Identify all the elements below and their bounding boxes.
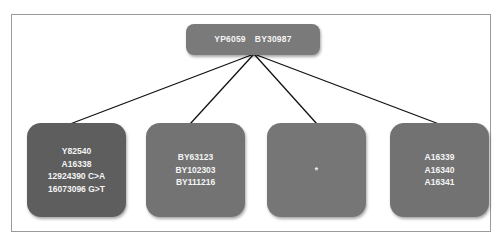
child-1-line-3: 12924390 C>A bbox=[48, 170, 105, 183]
child-node-1: Y82540 A16338 12924390 C>A 16073096 G>T bbox=[27, 123, 126, 217]
child-node-4: A16339 A16340 A16341 bbox=[390, 123, 489, 217]
child-node-2: BY63123 BY102303 BY111216 bbox=[146, 123, 245, 217]
child-node-3: * bbox=[267, 123, 366, 217]
child-4-line-2: A16340 bbox=[425, 164, 455, 177]
child-3-line-1: * bbox=[315, 164, 318, 177]
child-2-line-1: BY63123 bbox=[178, 151, 213, 164]
child-1-line-2: A16338 bbox=[62, 158, 92, 171]
connector-to-child-4 bbox=[254, 54, 439, 124]
root-node: YP6059 BY30987 bbox=[186, 24, 320, 55]
root-label-1: YP6059 bbox=[214, 33, 245, 46]
connector-to-child-2 bbox=[190, 54, 254, 124]
child-2-line-2: BY102303 bbox=[175, 164, 215, 177]
child-4-line-1: A16339 bbox=[425, 151, 455, 164]
child-1-line-4: 16073096 G>T bbox=[48, 183, 105, 196]
child-4-line-3: A16341 bbox=[425, 176, 455, 189]
connector-to-child-3 bbox=[254, 54, 317, 124]
child-2-line-3: BY111216 bbox=[176, 176, 215, 189]
root-label-2: BY30987 bbox=[255, 33, 292, 46]
connector-to-child-1 bbox=[70, 54, 254, 124]
child-1-line-1: Y82540 bbox=[62, 145, 91, 158]
